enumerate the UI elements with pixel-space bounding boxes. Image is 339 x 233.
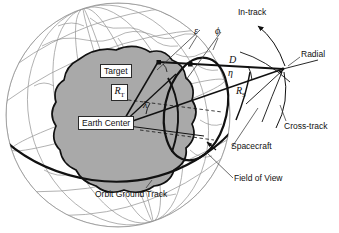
symbol-epsilon: ε (194, 26, 198, 36)
symbol-radius-target: RT (111, 84, 128, 101)
symbol-lambda: λ (143, 100, 147, 110)
diagram-canvas (0, 0, 339, 233)
leader-cross-track (280, 105, 286, 121)
label-radial: Radial (301, 50, 325, 59)
label-orbit-ground-track: Orbit Ground Track (95, 190, 167, 199)
symbol-eta: η (228, 68, 233, 78)
label-in-track: In-track (238, 8, 266, 17)
radial-axis-line (283, 60, 318, 69)
symbol-radius-spacecraft: RS (236, 86, 246, 99)
label-earth-center: Earth Center (78, 116, 134, 130)
cross-track-line (276, 72, 286, 128)
symbol-phi: ϕ (215, 26, 220, 36)
label-cross-track: Cross-track (284, 122, 327, 131)
label-field-of-view: Field of View (234, 174, 283, 183)
in-track-arrow (258, 26, 285, 66)
satellite-geometry-diagram: Target Earth Center Spacecraft Field of … (0, 0, 339, 233)
label-target: Target (100, 64, 132, 78)
symbol-radius-spacecraft-sub: S (242, 91, 246, 98)
label-spacecraft: Spacecraft (231, 142, 272, 151)
symbol-radius-target-sub: T (121, 91, 125, 98)
symbol-distance-D: D (229, 55, 236, 65)
